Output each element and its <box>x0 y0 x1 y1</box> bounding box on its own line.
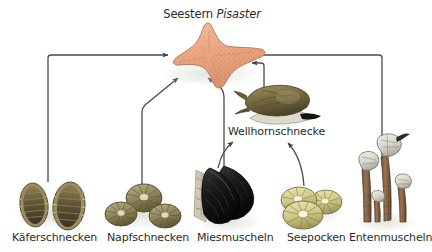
node-label-entenmuscheln: Entenmuscheln <box>349 232 432 244</box>
edge-chiton-to-seastern <box>48 55 168 182</box>
title-genus-prefix: Seestern <box>163 7 216 21</box>
title-genus-italic: Pisaster <box>216 7 260 21</box>
node-label-napfschnecken: Napfschnecken <box>107 232 189 244</box>
starfish-icon <box>156 23 265 88</box>
page-title: Seestern Pisaster <box>0 8 424 20</box>
node-label-seepocken: Seepocken <box>287 232 346 244</box>
chiton-icon <box>10 181 94 232</box>
goose-barnacle-icon <box>351 134 419 234</box>
node-label-miesmuscheln: Miesmuscheln <box>197 232 273 244</box>
barnacle-icon <box>270 187 346 229</box>
limpet-icon <box>97 184 187 231</box>
node-label-wellhornschnecke: Wellhornschnecke <box>228 126 325 138</box>
mussel-icon <box>192 166 264 234</box>
edge-limpet-to-seastern <box>142 78 178 186</box>
edge-barnacle-to-whelk <box>288 143 304 186</box>
node-label-kaeferschnecken: Käferschnecken <box>12 232 97 244</box>
whelk-snail-icon <box>234 85 321 128</box>
edge-mussel-to-whelk <box>218 142 233 168</box>
